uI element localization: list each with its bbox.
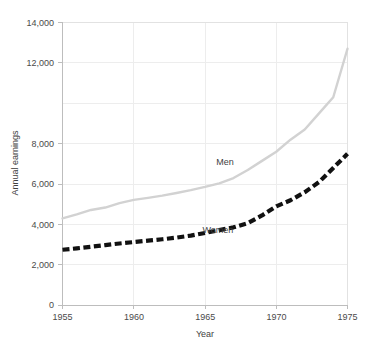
y-axis-tick-labels: 14,000 12,000 8,000 6,000 4,000 2,000 0 bbox=[26, 18, 54, 311]
y-tick-label-0: 0 bbox=[49, 300, 54, 310]
x-axis-title: Year bbox=[196, 329, 214, 339]
x-axis-tick-labels: 1955 1960 1965 1970 1975 bbox=[52, 312, 357, 322]
y-tick-label-8000: 8,000 bbox=[31, 139, 54, 149]
x-tick-label-1965: 1965 bbox=[195, 312, 215, 322]
series-label-men: Men bbox=[216, 157, 234, 167]
y-tick-label-2000: 2,000 bbox=[31, 260, 54, 270]
x-tick-label-1955: 1955 bbox=[52, 312, 72, 322]
x-tick-label-1975: 1975 bbox=[337, 312, 357, 322]
y-tick-label-4000: 4,000 bbox=[31, 220, 54, 230]
earnings-line-chart: 14,000 12,000 8,000 6,000 4,000 2,000 0 … bbox=[0, 0, 374, 350]
x-axis-tick-marks bbox=[63, 306, 348, 310]
chart-container: 14,000 12,000 8,000 6,000 4,000 2,000 0 … bbox=[0, 0, 374, 350]
y-tick-label-14000: 14,000 bbox=[26, 18, 54, 28]
series-label-women: Women bbox=[202, 225, 233, 235]
y-tick-label-12000: 12,000 bbox=[26, 58, 54, 68]
x-tick-label-1970: 1970 bbox=[267, 312, 287, 322]
y-axis-tick-marks bbox=[58, 23, 63, 306]
y-axis-title: Annual earnings bbox=[10, 130, 20, 196]
x-tick-label-1960: 1960 bbox=[124, 312, 144, 322]
y-tick-label-6000: 6,000 bbox=[31, 179, 54, 189]
